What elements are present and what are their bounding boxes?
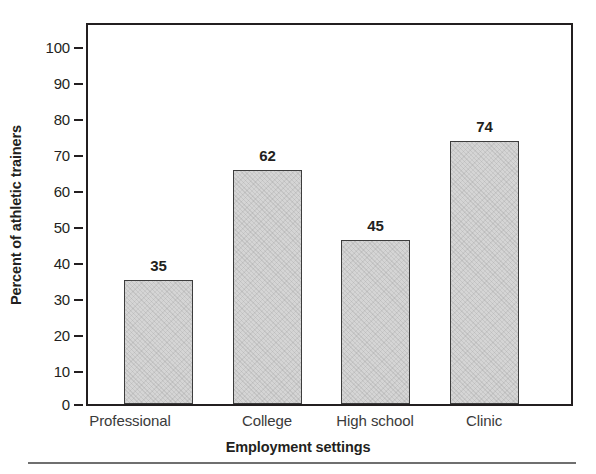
y-axis-tick: 60 [54, 184, 86, 200]
y-axis-tick-mark [74, 155, 83, 157]
y-axis-tick-label: 70 [54, 148, 74, 164]
x-axis-tick-label-clinic: Clinic [418, 412, 550, 429]
y-axis-tick: 40 [54, 256, 86, 272]
y-axis-tick-mark [74, 191, 83, 193]
y-axis-tick: 100 [46, 40, 86, 56]
bar-value-clinic: 74 [450, 118, 519, 135]
y-axis-tick-label: 50 [54, 220, 74, 236]
y-axis-tick-label: 100 [46, 40, 74, 56]
y-axis-tick-label: 10 [54, 364, 74, 380]
y-axis-tick: 20 [54, 328, 86, 344]
bar-value-college: 62 [233, 147, 302, 164]
y-axis-tick-mark [74, 83, 83, 85]
y-axis-tick-mark [74, 263, 83, 265]
y-axis-tick: 50 [54, 220, 86, 236]
y-axis-tick: 30 [54, 292, 86, 308]
y-axis-tick: 70 [54, 148, 86, 164]
bar-high-school [341, 240, 410, 404]
bar-value-high-school: 45 [341, 217, 410, 234]
bottom-rule [28, 462, 576, 464]
y-axis-tick: 10 [54, 364, 86, 380]
y-axis-tick-label: 20 [54, 328, 74, 344]
y-axis-tick-mark [74, 47, 83, 49]
bar-college [233, 170, 302, 404]
plot-area: 35 62 45 74 [88, 25, 571, 404]
y-axis-title: Percent of athletic trainers [8, 85, 24, 345]
y-axis-tick-label: 90 [54, 76, 74, 92]
y-axis-tick-mark [74, 335, 83, 337]
y-axis-tick-mark [74, 227, 83, 229]
bar-chart-figure: 100 90 80 70 60 50 40 30 [0, 0, 596, 474]
y-axis-tick: 80 [54, 112, 86, 128]
y-axis-tick: 90 [54, 76, 86, 92]
y-axis-tick-mark [74, 299, 83, 301]
y-axis-tick-mark [74, 371, 83, 373]
bar-professional [124, 280, 193, 404]
y-axis-tick-mark [74, 404, 83, 406]
y-axis-tick: 0 [62, 397, 86, 413]
y-axis-tick-label: 30 [54, 292, 74, 308]
y-axis-tick-label: 0 [62, 397, 74, 413]
y-axis-tick-mark [74, 119, 83, 121]
x-axis-tick-label-professional: Professional [64, 412, 196, 429]
y-axis-tick-label: 60 [54, 184, 74, 200]
y-axis-tick-label: 40 [54, 256, 74, 272]
bar-value-professional: 35 [124, 257, 193, 274]
x-axis-title: Employment settings [0, 439, 596, 455]
y-axis-tick-label: 80 [54, 112, 74, 128]
bar-clinic [450, 141, 519, 404]
